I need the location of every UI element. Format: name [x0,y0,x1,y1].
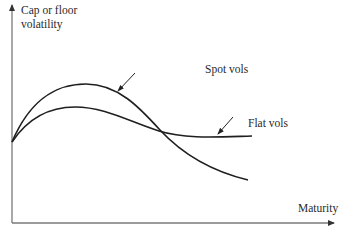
spot-vols-curve [12,84,248,180]
chart-canvas [0,0,344,238]
y-axis-label-line2: volatility [21,17,77,31]
spot-vols-label: Spot vols [205,62,248,76]
flat-vols-arrow [218,117,233,134]
flat-vols-label: Flat vols [248,116,288,130]
y-axis-label: Cap or floor volatility [21,3,77,31]
x-axis-label: Maturity [298,201,338,215]
flat-vols-curve [12,107,252,142]
y-axis-label-line1: Cap or floor [21,3,77,17]
spot-vols-arrow [118,73,135,91]
